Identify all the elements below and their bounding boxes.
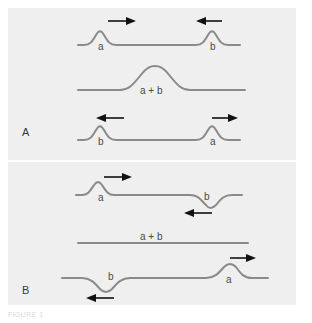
pulse-label-b-brow3: b bbox=[108, 271, 114, 282]
panel-b-label: B bbox=[22, 284, 30, 296]
panel-a-label: A bbox=[22, 126, 30, 138]
pulse-label-b-row1: b bbox=[210, 41, 216, 52]
pulse-label-b-brow1: b bbox=[204, 191, 210, 202]
sum-label-row2-a: a + b bbox=[140, 85, 163, 96]
panel-a-constructive bbox=[8, 8, 296, 160]
wave-superposition-figure: A B a b a + b b a a b a + b b a FIGURE 1 bbox=[0, 0, 312, 323]
sum-label-row2-b: a + b bbox=[140, 231, 163, 242]
pulse-label-a-row3: a bbox=[210, 136, 216, 147]
pulse-label-a-row1: a bbox=[98, 41, 104, 52]
pulse-label-a-brow1: a bbox=[98, 192, 104, 203]
figure-caption: FIGURE 1 bbox=[8, 311, 43, 318]
pulse-label-b-row3: b bbox=[98, 136, 104, 147]
pulse-label-a-brow3: a bbox=[226, 274, 232, 285]
